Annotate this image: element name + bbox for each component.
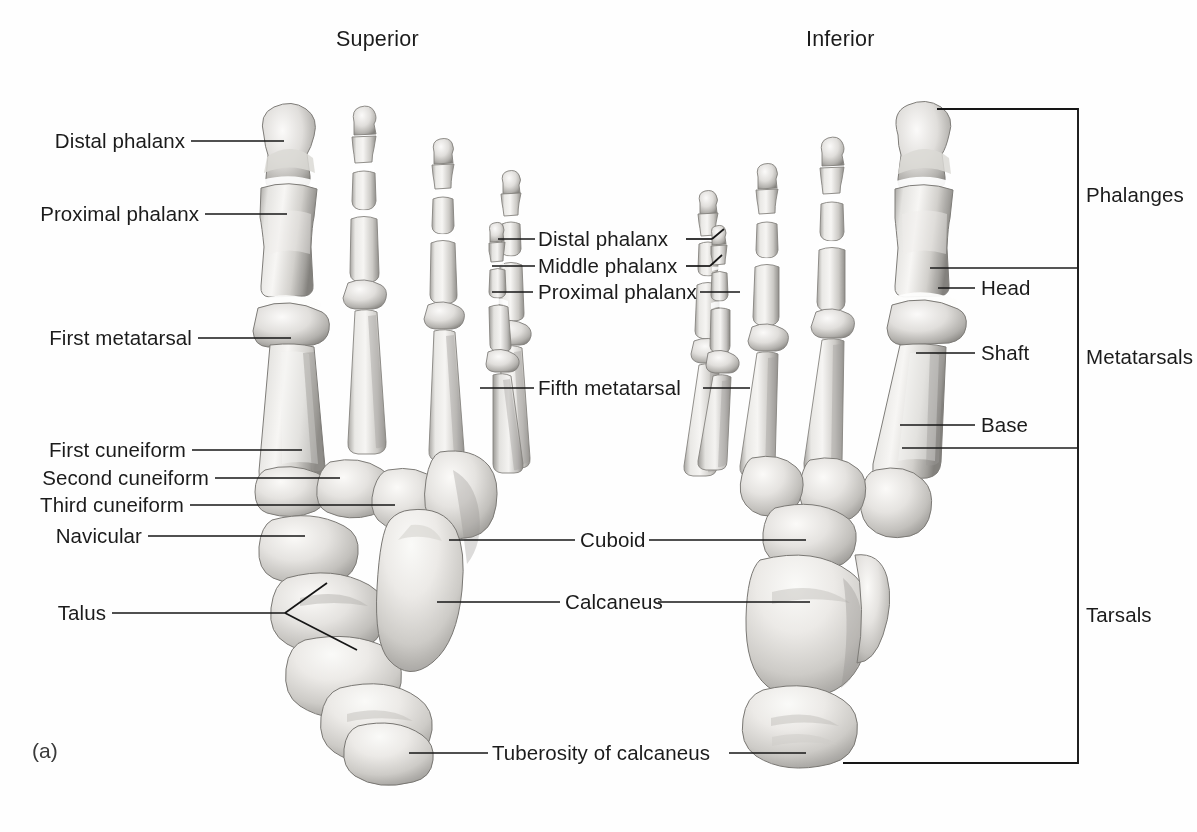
label-head: Head: [981, 277, 1030, 299]
heading-superior: Superior: [336, 27, 419, 52]
label-second-cuneiform: Second cuneiform: [0, 467, 209, 489]
label-first-cuneiform: First cuneiform: [0, 439, 186, 461]
bracket-label-tarsals: Tarsals: [1086, 604, 1152, 626]
bracket-outline: [843, 109, 1078, 763]
label-middle-phalanx-fifth: Middle phalanx: [538, 255, 677, 277]
label-fifth-metatarsal: Fifth metatarsal: [538, 377, 681, 399]
bracket-label-metatarsals: Metatarsals: [1086, 346, 1193, 368]
heading-inferior: Inferior: [806, 27, 875, 52]
label-cuboid: Cuboid: [580, 529, 646, 551]
leader-talus-upper: [285, 583, 327, 613]
label-talus: Talus: [0, 602, 106, 624]
label-navicular: Navicular: [0, 525, 142, 547]
panel-letter: (a): [32, 739, 58, 763]
figure-canvas: Superior Inferior Distal phalanx Proxima…: [0, 0, 1197, 832]
bracket-label-phalanges: Phalanges: [1086, 184, 1184, 206]
label-base: Base: [981, 414, 1028, 436]
label-first-metatarsal: First metatarsal: [0, 327, 192, 349]
label-proximal-phalanx: Proximal phalanx: [0, 203, 199, 225]
label-distal-phalanx: Distal phalanx: [0, 130, 185, 152]
label-tuberosity-of-calcaneus: Tuberosity of calcaneus: [492, 742, 710, 764]
label-shaft: Shaft: [981, 342, 1029, 364]
label-proximal-phalanx-fifth: Proximal phalanx: [538, 281, 697, 303]
leader-c-distal-right-b: [712, 229, 724, 239]
leader-talus-lower: [285, 613, 357, 650]
label-third-cuneiform: Third cuneiform: [0, 494, 184, 516]
leader-c-middle-right-b: [710, 255, 722, 266]
label-distal-phalanx-fifth: Distal phalanx: [538, 228, 668, 250]
label-calcaneus: Calcaneus: [565, 591, 663, 613]
